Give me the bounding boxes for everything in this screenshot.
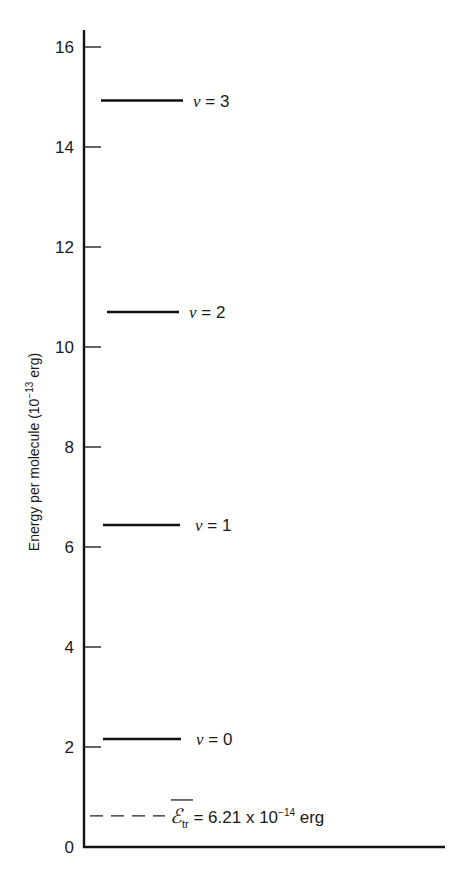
energy-level-label: v = 2	[189, 303, 225, 322]
y-tick-label: 14	[55, 138, 74, 157]
y-tick-label: 16	[55, 38, 74, 57]
energy-level-label: v = 1	[195, 516, 231, 535]
y-tick-label: 4	[65, 638, 74, 657]
y-tick-label: 8	[65, 438, 74, 457]
y-tick-label: 12	[55, 238, 74, 257]
energy-level-label: v = 0	[196, 730, 232, 749]
y-tick-label: 2	[65, 738, 74, 757]
reference-line-label: ℰtr = 6.21 x 10−14 erg	[170, 805, 324, 830]
y-tick-label: 0	[65, 838, 74, 857]
energy-level-label: v = 3	[193, 92, 229, 111]
y-tick-label: 6	[65, 538, 74, 557]
y-axis-label: Energy per molecule (10−13 erg)	[24, 353, 42, 551]
energy-level-chart: 0246810121416Energy per molecule (10−13 …	[0, 0, 463, 875]
y-tick-label: 10	[55, 338, 74, 357]
